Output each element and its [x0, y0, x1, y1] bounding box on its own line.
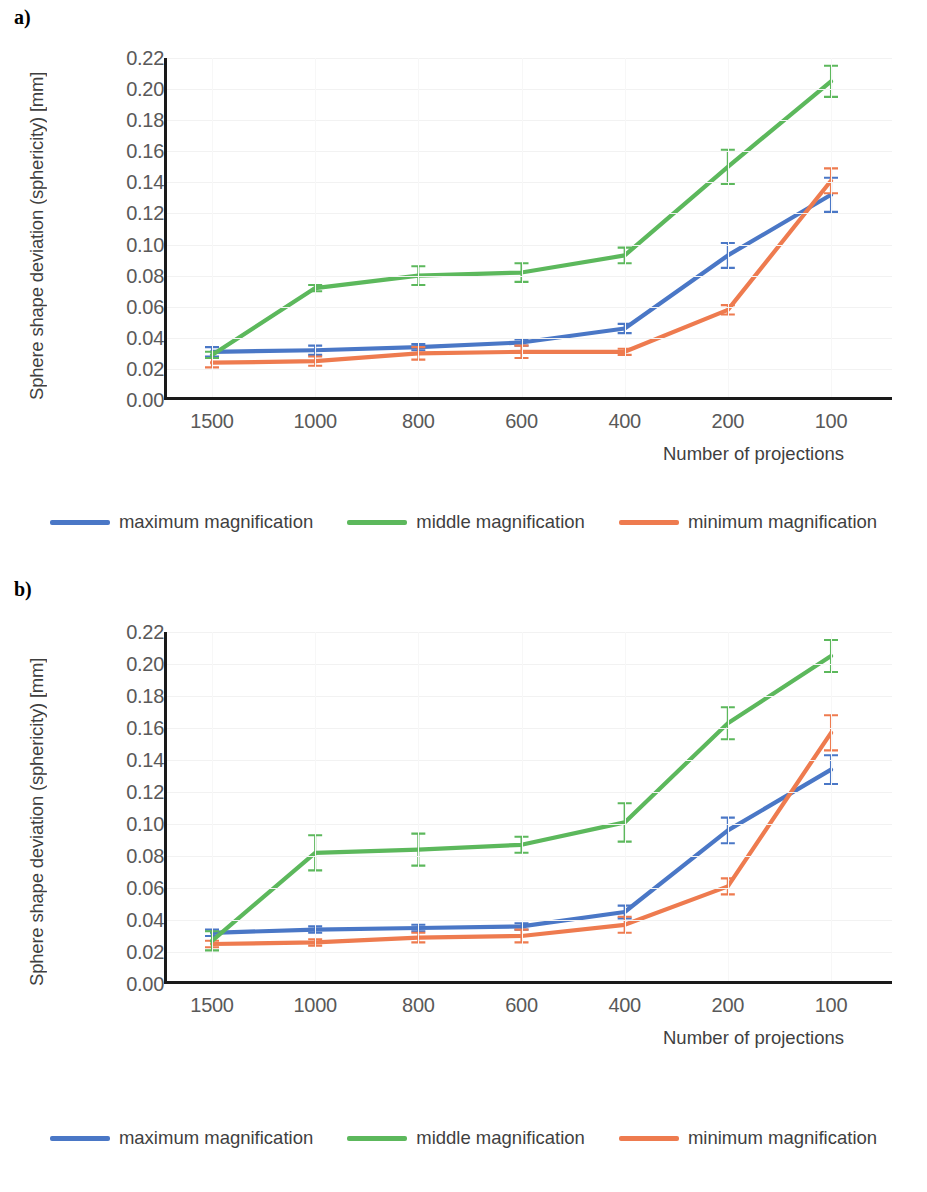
- gridline-vertical: [625, 58, 626, 400]
- panel-a-y-axis-title: Sphere shape deviation (sphericity) [mm]: [26, 64, 48, 400]
- x-tick-label: 1000: [294, 994, 337, 1017]
- legend-label: middle magnification: [416, 511, 585, 533]
- gridline-horizontal: [164, 728, 892, 729]
- panel-b-y-tick-labels: 0.000.020.040.060.080.100.120.140.160.18…: [102, 632, 164, 984]
- y-tick-label: 0.08: [126, 845, 164, 868]
- y-tick-label: 0.06: [126, 295, 164, 318]
- y-tick-label: 0.04: [126, 909, 164, 932]
- gridline-vertical: [212, 632, 213, 984]
- panel-b-plot-area: 0.000.020.040.060.080.100.120.140.160.18…: [102, 632, 892, 984]
- legend-item: middle magnification: [347, 511, 585, 533]
- legend-swatch-icon: [619, 1136, 679, 1141]
- x-tick-label: 600: [505, 994, 537, 1017]
- legend-swatch-icon: [619, 520, 679, 525]
- y-tick-label: 0.16: [126, 140, 164, 163]
- gridline-vertical: [831, 632, 832, 984]
- y-tick-label: 0.22: [126, 621, 164, 644]
- x-tick-label: 1500: [190, 994, 233, 1017]
- y-tick-label: 0.02: [126, 941, 164, 964]
- x-tick-label: 1000: [294, 410, 337, 433]
- panel-a: a) Sphere shape deviation (sphericity) […: [0, 0, 927, 560]
- y-tick-label: 0.04: [126, 326, 164, 349]
- y-tick-label: 0.08: [126, 264, 164, 287]
- x-tick-label: 100: [815, 410, 847, 433]
- panel-b-y-axis-line: [164, 632, 167, 984]
- legend-label: minimum magnification: [688, 1127, 877, 1149]
- y-tick-label: 0.12: [126, 202, 164, 225]
- legend-swatch-icon: [347, 1136, 407, 1141]
- gridline-horizontal: [164, 632, 892, 633]
- x-tick-label: 200: [712, 410, 744, 433]
- y-tick-label: 0.20: [126, 78, 164, 101]
- y-tick-label: 0.14: [126, 171, 164, 194]
- legend-swatch-icon: [347, 520, 407, 525]
- gridline-horizontal: [164, 307, 892, 308]
- panel-b: b) Sphere shape deviation (sphericity) […: [0, 572, 927, 1192]
- gridline-vertical: [522, 58, 523, 400]
- panel-a-y-tick-labels: 0.000.020.040.060.080.100.120.140.160.18…: [102, 58, 164, 400]
- gridline-horizontal: [164, 696, 892, 697]
- gridline-vertical: [728, 632, 729, 984]
- gridline-horizontal: [164, 182, 892, 183]
- gridline-vertical: [418, 632, 419, 984]
- y-tick-label: 0.20: [126, 653, 164, 676]
- gridline-vertical: [212, 58, 213, 400]
- gridline-vertical: [315, 632, 316, 984]
- legend-label: maximum magnification: [119, 511, 313, 533]
- y-tick-label: 0.18: [126, 109, 164, 132]
- y-tick-label: 0.14: [126, 749, 164, 772]
- gridline-horizontal: [164, 213, 892, 214]
- x-tick-label: 600: [505, 410, 537, 433]
- panel-a-label: a): [14, 6, 31, 29]
- panel-a-x-axis-line: [164, 397, 892, 400]
- gridline-vertical: [625, 632, 626, 984]
- y-tick-label: 0.22: [126, 47, 164, 70]
- x-tick-label: 800: [402, 410, 434, 433]
- gridline-horizontal: [164, 760, 892, 761]
- legend-label: middle magnification: [416, 1127, 585, 1149]
- gridline-horizontal: [164, 276, 892, 277]
- legend-item: minimum magnification: [619, 511, 877, 533]
- panel-a-canvas: [164, 58, 892, 400]
- gridline-horizontal: [164, 664, 892, 665]
- legend-label: minimum magnification: [688, 511, 877, 533]
- y-tick-label: 0.06: [126, 877, 164, 900]
- y-tick-label: 0.10: [126, 813, 164, 836]
- gridline-horizontal: [164, 888, 892, 889]
- legend-swatch-icon: [50, 1136, 110, 1141]
- gridline-horizontal: [164, 369, 892, 370]
- legend-item: maximum magnification: [50, 511, 313, 533]
- x-tick-label: 400: [608, 410, 640, 433]
- panel-b-gridlines: [164, 632, 892, 984]
- panel-a-y-axis-line: [164, 58, 167, 400]
- y-tick-label: 0.00: [126, 389, 164, 412]
- y-tick-label: 0.00: [126, 973, 164, 996]
- panel-b-x-axis-line: [164, 981, 892, 984]
- x-tick-label: 1500: [190, 410, 233, 433]
- figure-root: a) Sphere shape deviation (sphericity) […: [0, 0, 927, 1192]
- gridline-horizontal: [164, 338, 892, 339]
- gridline-horizontal: [164, 89, 892, 90]
- x-tick-label: 400: [608, 994, 640, 1017]
- gridline-horizontal: [164, 920, 892, 921]
- gridline-horizontal: [164, 952, 892, 953]
- gridline-horizontal: [164, 58, 892, 59]
- legend-item: minimum magnification: [619, 1127, 877, 1149]
- gridline-vertical: [418, 58, 419, 400]
- y-tick-label: 0.10: [126, 233, 164, 256]
- y-tick-label: 0.02: [126, 357, 164, 380]
- panel-a-x-axis-title: Number of projections: [663, 443, 844, 465]
- y-tick-label: 0.18: [126, 685, 164, 708]
- panel-a-x-tick-labels: 15001000800600400200100: [164, 410, 889, 436]
- y-tick-label: 0.16: [126, 717, 164, 740]
- panel-b-x-tick-labels: 15001000800600400200100: [164, 994, 889, 1020]
- legend-swatch-icon: [50, 520, 110, 525]
- gridline-horizontal: [164, 151, 892, 152]
- panel-a-legend: maximum magnificationmiddle magnificatio…: [0, 511, 927, 533]
- gridline-vertical: [831, 58, 832, 400]
- x-tick-label: 800: [402, 994, 434, 1017]
- gridline-horizontal: [164, 824, 892, 825]
- panel-b-legend: maximum magnificationmiddle magnificatio…: [0, 1127, 927, 1149]
- gridline-horizontal: [164, 856, 892, 857]
- legend-item: maximum magnification: [50, 1127, 313, 1149]
